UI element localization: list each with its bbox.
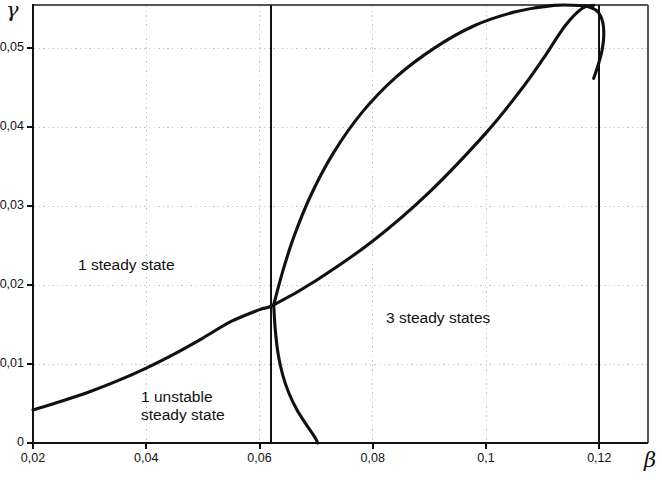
region-label-one-steady-state: 1 steady state <box>78 256 175 274</box>
x-tick-label: 0,12 <box>569 452 629 465</box>
x-tick-label: 0,06 <box>230 452 290 465</box>
y-tick-label: 0,03 <box>0 199 24 212</box>
x-tick-label: 0,1 <box>456 452 516 465</box>
boundary-lines-group <box>271 5 599 443</box>
x-tick-label: 0,02 <box>3 452 63 465</box>
plot-canvas <box>0 0 662 480</box>
y-axis-label: γ <box>6 0 19 21</box>
region-label-one-unstable-steady-state: 1 unstablesteady state <box>141 388 225 424</box>
x-axis-label: β <box>644 450 656 471</box>
y-tick-label: 0,01 <box>0 357 24 370</box>
y-tick-label: 0,04 <box>0 120 24 133</box>
bifurcation-diagram-figure: γ β 00,010,020,030,040,05 0,020,040,060,… <box>0 0 662 480</box>
x-tick-label: 0,04 <box>116 452 176 465</box>
y-tick-label: 0,05 <box>0 41 24 54</box>
y-tick-label: 0,02 <box>0 278 24 291</box>
fold-curve <box>274 305 318 443</box>
fold-curve <box>33 5 594 409</box>
tick-marks-group <box>27 48 599 449</box>
x-tick-label: 0,08 <box>343 452 403 465</box>
y-tick-label: 0 <box>17 436 24 449</box>
fold-curves-group <box>33 5 604 443</box>
unstable-label-line-2: steady state <box>141 406 225 423</box>
fold-curve <box>585 6 604 79</box>
region-label-three-steady-states: 3 steady states <box>386 309 490 327</box>
unstable-label-line-1: 1 unstable <box>141 388 213 405</box>
fold-curve <box>274 5 585 305</box>
